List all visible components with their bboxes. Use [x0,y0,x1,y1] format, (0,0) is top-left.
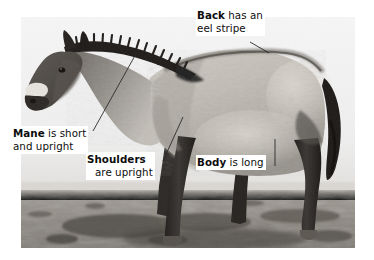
callout-back: Back has an eel stripe [196,8,265,36]
callout-body-line1-rest: is long [226,156,263,168]
callout-body-line1: Body is long [197,156,264,169]
callout-back-line1-rest: has an [225,9,263,21]
callout-shoulders-line1: Shoulders [87,153,153,166]
callout-back-line2: eel stripe [197,22,263,35]
callout-mane-line2: and upright [13,140,86,153]
callout-body-term: Body [197,156,226,168]
callout-mane-term: Mane [13,127,45,139]
callout-mane-line1: Mane is short [13,127,86,140]
callout-shoulders-term: Shoulders [87,153,146,165]
callout-mane-line1-rest: is short [45,127,87,139]
callout-shoulders: Shoulders are upright [86,152,155,180]
callout-mane: Mane is short and upright [12,126,88,154]
callout-back-line1: Back has an [197,9,263,22]
callout-body: Body is long [196,155,266,170]
annotated-horse-figure: Back has an eel stripe Mane is short and… [0,0,374,260]
callout-shoulders-line2: are upright [87,166,153,179]
callout-back-term: Back [197,9,225,21]
